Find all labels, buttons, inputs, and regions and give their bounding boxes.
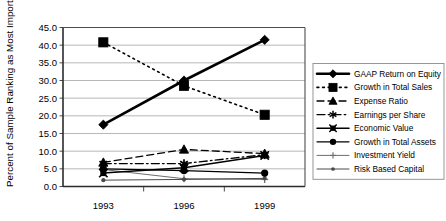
marker-x-square: [329, 125, 336, 132]
legend-label: Growth in Total Assets: [354, 137, 436, 147]
legend-item-earnings-per-share[interactable]: Earnings per Share: [317, 110, 426, 120]
marker-circle: [261, 169, 268, 176]
y-axis-tick-label: 45.0: [39, 22, 58, 33]
x-axis-tick-label: 1993: [93, 200, 114, 211]
marker-dot: [101, 178, 105, 182]
line-chart: Percent of Sample Ranking as Most Import…: [0, 0, 446, 221]
y-axis-tick-label: 35.0: [39, 57, 58, 68]
y-axis-tick-label: 40.0: [39, 40, 58, 51]
marker-square: [99, 38, 108, 47]
marker-x-square: [99, 169, 107, 177]
marker-dot: [182, 177, 186, 181]
y-axis-tick-label: 20.0: [39, 110, 58, 121]
marker-dot: [331, 167, 335, 171]
x-axis-tick-label: 1999: [254, 200, 275, 211]
chart-container: Percent of Sample Ranking as Most Import…: [0, 0, 446, 221]
legend-label: Expense Ratio: [354, 96, 408, 106]
y-axis-tick-label: 0.0: [44, 181, 57, 192]
y-axis-tick-label: 30.0: [39, 75, 58, 86]
legend-label: Risk Based Capital: [354, 164, 424, 174]
x-axis-tick-label: 1996: [173, 200, 194, 211]
legend-box: [313, 64, 444, 180]
legend-group: GAAP Return on EquityGrowth in Total Sal…: [313, 64, 444, 180]
y-axis-tick-label: 15.0: [39, 128, 58, 139]
marker-circle: [330, 139, 336, 145]
y-axis-tick-label: 10.0: [39, 146, 58, 157]
y-axis-tick-label: 25.0: [39, 93, 58, 104]
y-axis-title-group: Percent of Sample Ranking as Most Import…: [4, 0, 15, 187]
legend-item-growth-in-total-sales[interactable]: Growth in Total Sales: [317, 82, 432, 92]
marker-dot: [263, 176, 267, 180]
legend-label: Investment Yield: [354, 150, 415, 160]
marker-square: [260, 110, 269, 119]
legend-label: GAAP Return on Equity: [354, 69, 442, 79]
legend-label: Economic Value: [354, 123, 414, 133]
legend-label: Earnings per Share: [354, 110, 426, 120]
legend-label: Growth in Total Sales: [354, 82, 432, 92]
y-axis-title: Percent of Sample Ranking as Most Import…: [4, 0, 15, 187]
marker-square: [329, 83, 337, 91]
y-axis-tick-label: 5.0: [44, 163, 57, 174]
